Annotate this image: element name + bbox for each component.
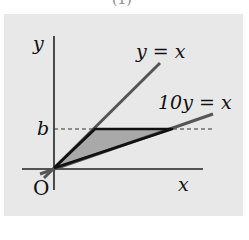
label-10y-equals-x: 10y = x — [158, 93, 232, 112]
label-y-equals-x: y = x — [136, 42, 185, 61]
y-axis-label: y — [33, 34, 44, 53]
origin-label: O — [33, 178, 49, 198]
b-tick-label: b — [37, 119, 49, 138]
x-axis-label: x — [178, 175, 189, 194]
